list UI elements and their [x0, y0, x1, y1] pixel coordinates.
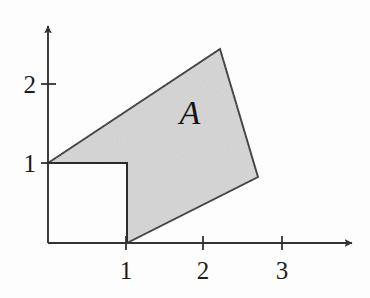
- y-tick-label-2: 2: [24, 72, 37, 97]
- x-tick-label-3: 3: [276, 258, 289, 283]
- plot-canvas: [0, 0, 370, 298]
- region-label-a: A: [180, 96, 201, 130]
- x-tick-label-1: 1: [120, 258, 133, 283]
- x-tick-label-2: 2: [197, 258, 210, 283]
- geometry-figure: 2 1 1 2 3 A: [0, 0, 370, 298]
- notch-square-outline: [48, 163, 127, 243]
- region-a-polygon: [48, 49, 258, 243]
- y-tick-label-1: 1: [24, 151, 37, 176]
